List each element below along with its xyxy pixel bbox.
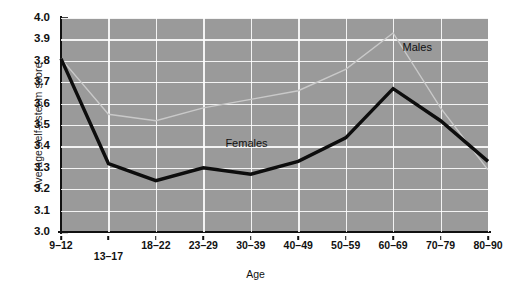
series-line-females [61,59,488,181]
plot-area: MalesFemales [61,18,488,232]
y-tick-label: 3.1 [16,205,50,217]
y-tick-label: 3.4 [16,141,50,153]
x-tick-label: 13–17 [94,250,123,262]
vertical-gridline [488,18,489,232]
x-tick-label: 23–29 [189,239,218,251]
series-line-males [61,33,488,170]
chart-figure: Average self-esteem score 3.03.13.23.33.… [0,0,511,300]
x-tick-label: 80–90 [473,239,502,251]
y-tick-label: 3.9 [16,34,50,46]
y-tick-label: 3.5 [16,119,50,131]
y-tick-label: 3.7 [16,76,50,88]
series-label-females: Females [225,137,267,149]
x-axis-tick-labels: 9–1213–1718–2223–2930–3940–4950–5960–697… [0,236,511,266]
y-tick-label: 3.2 [16,183,50,195]
x-tick-label: 30–39 [236,239,265,251]
x-tick-label: 60–69 [379,239,408,251]
x-tick-label: 50–59 [331,239,360,251]
y-tick-label: 3.8 [16,55,50,67]
x-tick-mark [108,236,110,240]
y-tick-label: 4.0 [16,12,50,24]
x-tick-label: 18–22 [141,239,170,251]
x-axis-title: Age [0,268,511,280]
x-tick-label: 40–49 [284,239,313,251]
y-tick-label: 3.3 [16,162,50,174]
series-label-males: Males [403,41,432,53]
y-tick-label: 3.6 [16,98,50,110]
x-tick-label: 9–12 [49,239,72,251]
x-tick-label: 70–79 [426,239,455,251]
